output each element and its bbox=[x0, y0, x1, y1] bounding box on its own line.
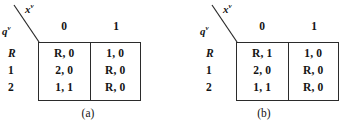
transition-table-a: R, 0 2, 0 1, 1 1, 0 R, 0 R, 0 bbox=[38, 42, 141, 101]
table-column-1-a: 1, 0 R, 0 R, 0 bbox=[90, 43, 141, 100]
table-cell-r1c1-b: R, 0 bbox=[289, 62, 339, 79]
row-header-0-a: R bbox=[8, 45, 34, 62]
axis-label-input-sup-a: v bbox=[31, 2, 34, 10]
axis-label-state-sup-a: v bbox=[8, 24, 11, 32]
column-header-1-b: 1 bbox=[288, 20, 340, 32]
table-cell-r0c1-b: 1, 0 bbox=[289, 45, 339, 62]
row-header-0-b: R bbox=[206, 45, 232, 62]
transition-table-b: R, 1 2, 0 1, 1 1, 0 R, 0 R, 0 bbox=[236, 42, 339, 101]
axis-label-state-b: qv bbox=[200, 26, 209, 37]
table-column-0-a: R, 0 2, 0 1, 1 bbox=[39, 43, 90, 100]
axis-label-input-a: xv bbox=[25, 4, 34, 15]
axis-label-state-a: qv bbox=[2, 26, 11, 37]
row-header-group-a: R 1 2 bbox=[8, 45, 34, 96]
table-cell-r0c0-a: R, 0 bbox=[39, 45, 90, 62]
column-header-0-b: 0 bbox=[236, 20, 288, 32]
panel-caption-b: (b) bbox=[176, 107, 352, 119]
axis-label-input-b: xv bbox=[223, 4, 232, 15]
table-cell-r1c0-b: 2, 0 bbox=[237, 62, 288, 79]
column-header-0-a: 0 bbox=[38, 20, 90, 32]
row-header-group-b: R 1 2 bbox=[206, 45, 232, 96]
row-header-2-b: 2 bbox=[206, 79, 232, 96]
table-column-1-b: 1, 0 R, 0 R, 0 bbox=[288, 43, 339, 100]
table-cell-r2c0-b: 1, 1 bbox=[237, 79, 288, 96]
row-header-2-a: 2 bbox=[8, 79, 34, 96]
column-header-1-a: 1 bbox=[90, 20, 142, 32]
panel-caption-a: (a) bbox=[0, 107, 176, 119]
table-cell-r0c1-a: 1, 0 bbox=[91, 45, 141, 62]
row-header-1-a: 1 bbox=[8, 62, 34, 79]
row-header-1-b: 1 bbox=[206, 62, 232, 79]
figure-two-transition-tables: xv qv 0 1 R 1 2 R, 0 2, 0 1, 1 1, 0 R, 0… bbox=[0, 0, 353, 130]
table-cell-r2c1-a: R, 0 bbox=[91, 79, 141, 96]
table-cell-r2c0-a: 1, 1 bbox=[39, 79, 90, 96]
figure-panel-a: xv qv 0 1 R 1 2 R, 0 2, 0 1, 1 1, 0 R, 0… bbox=[0, 0, 176, 130]
table-cell-r1c0-a: 2, 0 bbox=[39, 62, 90, 79]
table-column-0-b: R, 1 2, 0 1, 1 bbox=[237, 43, 288, 100]
table-cell-r2c1-b: R, 0 bbox=[289, 79, 339, 96]
table-cell-r0c0-b: R, 1 bbox=[237, 45, 288, 62]
table-cell-r1c1-a: R, 0 bbox=[91, 62, 141, 79]
axis-label-input-sup-b: v bbox=[229, 2, 232, 10]
figure-panel-b: xv qv 0 1 R 1 2 R, 1 2, 0 1, 1 1, 0 R, 0… bbox=[176, 0, 352, 130]
axis-label-state-sup-b: v bbox=[206, 24, 209, 32]
